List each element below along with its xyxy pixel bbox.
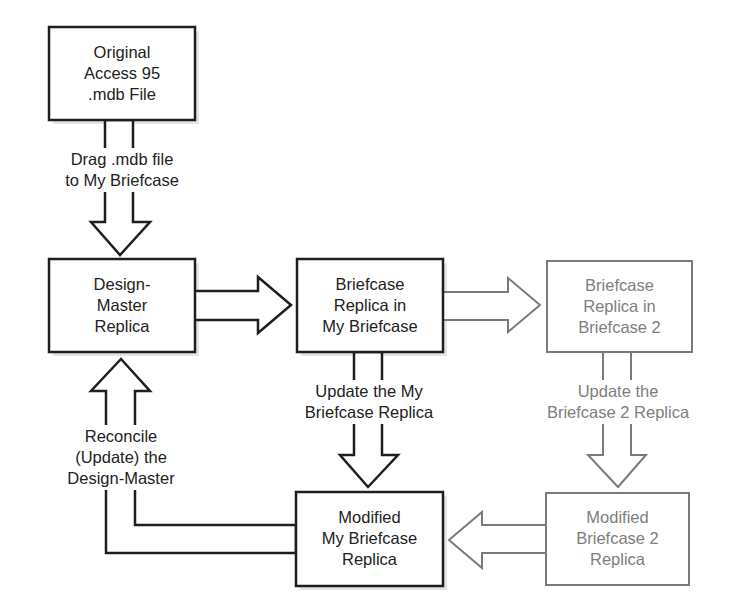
node-modified-briefcase2-label: Modified Briefcase 2 Replica [546,507,689,570]
edge-update-b2-label: Update the Briefcase 2 Replica [538,380,698,424]
edge-drag-label: Drag .mdb file to My Briefcase [55,148,189,192]
node-modified-my-briefcase-label: Modified My Briefcase Replica [296,507,443,570]
arrow-left-to-modified-my [449,512,546,568]
edge-reconcile-label: Reconcile (Update) the Design-Master [56,425,186,490]
node-briefcase2-replica-label: Briefcase Replica in Briefcase 2 [547,275,692,338]
arrow-right-to-briefcase2 [443,278,540,332]
node-briefcase-replica-label: Briefcase Replica in My Briefcase [297,274,443,337]
arrow-right-to-briefcase [194,277,291,333]
node-original-label: Original Access 95 .mdb File [49,42,195,105]
node-design-master-label: Design- Master Replica [49,274,195,337]
edge-update-my-label: Update the My Briefcase Replica [296,380,442,424]
